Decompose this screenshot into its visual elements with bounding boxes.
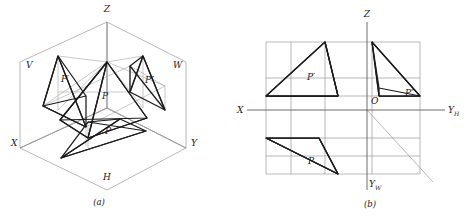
- label-origin-o: O: [371, 96, 379, 106]
- label-axis-x-a: X: [10, 138, 18, 148]
- label-p-prime-a: P′: [60, 74, 69, 84]
- label-plane-h: H: [102, 172, 111, 182]
- panel-b: Z X Y H Y W O P′ P″ P (b): [233, 0, 466, 219]
- label-p-plan-b: P: [307, 156, 315, 166]
- label-p-space-a: P: [101, 91, 109, 101]
- label-plane-w: W: [173, 60, 183, 70]
- label-p-plan-a: P: [104, 126, 112, 136]
- label-axis-yh-sub: H: [453, 110, 460, 117]
- panel-a-drawing: Z X Y V W H P′ P P″ P (a): [0, 0, 233, 219]
- bisector-45: [367, 110, 433, 182]
- panel-b-drawing: Z X Y H Y W O P′ P″ P (b): [233, 0, 466, 219]
- panel-a: Z X Y V W H P′ P P″ P (a): [0, 0, 233, 219]
- figure-root: Z X Y V W H P′ P P″ P (a): [0, 0, 466, 219]
- label-axis-x-b: X: [236, 105, 244, 115]
- projection-p-prime-b: [266, 42, 338, 96]
- label-axis-z-a: Z: [103, 4, 111, 14]
- label-axis-yh-b: Y H: [448, 105, 460, 117]
- label-p-prime-b: P′: [306, 72, 315, 82]
- construction-grid: [266, 42, 433, 182]
- label-axis-yw-b: Y W: [369, 179, 382, 191]
- caption-panel-b: (b): [364, 199, 376, 209]
- w-plane: [107, 22, 186, 148]
- axes-group-b: [247, 22, 445, 190]
- v-plane: [20, 22, 107, 148]
- projection-p-plan-a: [61, 119, 146, 158]
- label-p-dprime-b: P″: [404, 88, 415, 98]
- label-axis-yw-sub: W: [375, 184, 382, 191]
- label-axis-y-a: Y: [191, 138, 198, 148]
- label-p-dprime-a: P″: [144, 75, 155, 85]
- label-axis-z-b: Z: [363, 9, 371, 19]
- caption-panel-a: (a): [93, 197, 105, 207]
- outer-frame: [266, 42, 420, 174]
- p-plan-face-1: [61, 122, 146, 158]
- label-plane-v: V: [26, 60, 34, 70]
